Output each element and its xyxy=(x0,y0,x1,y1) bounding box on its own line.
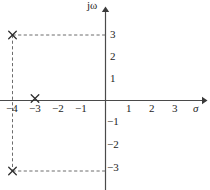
pole-zero-plot-figure: jω σ 3 2 1 −1 −2 −3 −4 −3 −2 −1 1 2 3 xyxy=(0,0,210,190)
x-tick-label-3: 3 xyxy=(172,103,178,114)
y-tick-label-2: 2 xyxy=(110,51,116,62)
y-tick-label-minus-2: −2 xyxy=(107,139,119,150)
x-tick-label-2: 2 xyxy=(149,103,155,114)
y-tick-label-1: 1 xyxy=(110,73,116,84)
y-tick-label-3: 3 xyxy=(110,29,116,40)
y-axis-label: jω xyxy=(87,0,97,11)
x-tick-label-minus-1: −1 xyxy=(75,103,87,114)
y-tick-label-minus-3: −3 xyxy=(107,162,119,173)
y-axis-arrowhead xyxy=(102,7,109,13)
x-tick-label-minus-3: −3 xyxy=(29,103,41,114)
x-tick-label-minus-4: −4 xyxy=(6,103,18,114)
x-tick-label-1: 1 xyxy=(126,103,132,114)
x-axis-label: σ xyxy=(193,103,198,114)
x-axis-arrowhead xyxy=(202,97,208,104)
y-tick-label-minus-1: −1 xyxy=(107,116,119,127)
x-tick-label-minus-2: −2 xyxy=(52,103,64,114)
plot-canvas xyxy=(0,0,210,190)
